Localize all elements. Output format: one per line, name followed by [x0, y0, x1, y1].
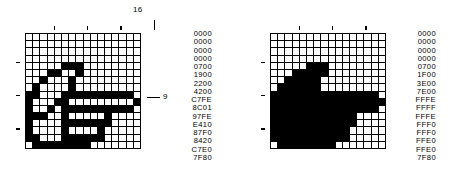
- pixel-cell[interactable]: [364, 70, 371, 77]
- pixel-cell[interactable]: [26, 63, 33, 70]
- pixel-cell[interactable]: [364, 120, 371, 127]
- pixel-cell[interactable]: [62, 142, 69, 149]
- pixel-cell[interactable]: [76, 120, 83, 127]
- pixel-cell[interactable]: [336, 77, 343, 84]
- pixel-cell[interactable]: [134, 113, 141, 120]
- pixel-cell[interactable]: [364, 127, 371, 134]
- pixel-cell[interactable]: [314, 142, 321, 149]
- pixel-cell[interactable]: [278, 92, 285, 99]
- pixel-cell[interactable]: [379, 113, 386, 120]
- pixel-cell[interactable]: [91, 113, 98, 120]
- pixel-cell[interactable]: [285, 56, 292, 63]
- pixel-cell[interactable]: [33, 127, 40, 134]
- pixel-cell[interactable]: [278, 48, 285, 55]
- pixel-cell[interactable]: [307, 41, 314, 48]
- pixel-cell[interactable]: [350, 48, 357, 55]
- pixel-cell[interactable]: [307, 63, 314, 70]
- pixel-cell[interactable]: [127, 106, 134, 113]
- pixel-cell[interactable]: [336, 135, 343, 142]
- pixel-cell[interactable]: [98, 113, 105, 120]
- pixel-cell[interactable]: [33, 34, 40, 41]
- pixel-cell[interactable]: [300, 92, 307, 99]
- pixel-cell[interactable]: [300, 41, 307, 48]
- pixel-cell[interactable]: [98, 92, 105, 99]
- pixel-cell[interactable]: [91, 135, 98, 142]
- pixel-cell[interactable]: [307, 135, 314, 142]
- pixel-cell[interactable]: [372, 70, 379, 77]
- pixel-cell[interactable]: [26, 113, 33, 120]
- pixel-cell[interactable]: [271, 99, 278, 106]
- pixel-cell[interactable]: [112, 106, 119, 113]
- pixel-cell[interactable]: [307, 48, 314, 55]
- pixel-cell[interactable]: [62, 41, 69, 48]
- pixel-cell[interactable]: [271, 120, 278, 127]
- pixel-cell[interactable]: [336, 106, 343, 113]
- pixel-cell[interactable]: [127, 41, 134, 48]
- pixel-cell[interactable]: [98, 135, 105, 142]
- pixel-cell[interactable]: [112, 127, 119, 134]
- pixel-cell[interactable]: [357, 127, 364, 134]
- pixel-cell[interactable]: [105, 99, 112, 106]
- pixel-cell[interactable]: [134, 77, 141, 84]
- pixel-cell[interactable]: [314, 34, 321, 41]
- pixel-cell[interactable]: [329, 142, 336, 149]
- pixel-cell[interactable]: [314, 92, 321, 99]
- pixel-cell[interactable]: [293, 127, 300, 134]
- pixel-cell[interactable]: [372, 84, 379, 91]
- pixel-cell[interactable]: [314, 77, 321, 84]
- pixel-cell[interactable]: [307, 34, 314, 41]
- pixel-cell[interactable]: [48, 70, 55, 77]
- pixel-cell[interactable]: [278, 56, 285, 63]
- pixel-cell[interactable]: [314, 127, 321, 134]
- pixel-cell[interactable]: [134, 135, 141, 142]
- pixel-cell[interactable]: [364, 113, 371, 120]
- pixel-cell[interactable]: [293, 48, 300, 55]
- pixel-cell[interactable]: [55, 113, 62, 120]
- pixel-cell[interactable]: [40, 120, 47, 127]
- pixel-cell[interactable]: [119, 77, 126, 84]
- pixel-cell[interactable]: [285, 120, 292, 127]
- pixel-cell[interactable]: [112, 113, 119, 120]
- pixel-cell[interactable]: [372, 41, 379, 48]
- pixel-cell[interactable]: [278, 127, 285, 134]
- pixel-cell[interactable]: [364, 77, 371, 84]
- pixel-cell[interactable]: [293, 41, 300, 48]
- pixel-cell[interactable]: [350, 77, 357, 84]
- pixel-cell[interactable]: [278, 106, 285, 113]
- pixel-cell[interactable]: [350, 120, 357, 127]
- pixel-cell[interactable]: [91, 41, 98, 48]
- pixel-cell[interactable]: [379, 142, 386, 149]
- pixel-cell[interactable]: [98, 48, 105, 55]
- pixel-cell[interactable]: [76, 113, 83, 120]
- pixel-cell[interactable]: [33, 41, 40, 48]
- pixel-cell[interactable]: [119, 56, 126, 63]
- pixel-cell[interactable]: [69, 41, 76, 48]
- pixel-cell[interactable]: [40, 63, 47, 70]
- pixel-cell[interactable]: [119, 34, 126, 41]
- pixel-cell[interactable]: [372, 34, 379, 41]
- pixel-cell[interactable]: [271, 92, 278, 99]
- pixel-cell[interactable]: [278, 135, 285, 142]
- pixel-cell[interactable]: [98, 99, 105, 106]
- pixel-cell[interactable]: [379, 135, 386, 142]
- pixel-cell[interactable]: [134, 56, 141, 63]
- pixel-cell[interactable]: [91, 56, 98, 63]
- pixel-cell[interactable]: [343, 48, 350, 55]
- pixel-cell[interactable]: [372, 48, 379, 55]
- pixel-cell[interactable]: [343, 142, 350, 149]
- pixel-cell[interactable]: [321, 34, 328, 41]
- pixel-cell[interactable]: [350, 106, 357, 113]
- pixel-cell[interactable]: [271, 70, 278, 77]
- pixel-cell[interactable]: [55, 120, 62, 127]
- pixel-cell[interactable]: [134, 84, 141, 91]
- pixel-cell[interactable]: [84, 142, 91, 149]
- pixel-cell[interactable]: [112, 99, 119, 106]
- pixel-cell[interactable]: [364, 56, 371, 63]
- pixel-cell[interactable]: [40, 48, 47, 55]
- pixel-cell[interactable]: [329, 34, 336, 41]
- pixel-cell[interactable]: [40, 77, 47, 84]
- pixel-cell[interactable]: [40, 41, 47, 48]
- pixel-cell[interactable]: [321, 70, 328, 77]
- pixel-cell[interactable]: [91, 120, 98, 127]
- pixel-cell[interactable]: [307, 113, 314, 120]
